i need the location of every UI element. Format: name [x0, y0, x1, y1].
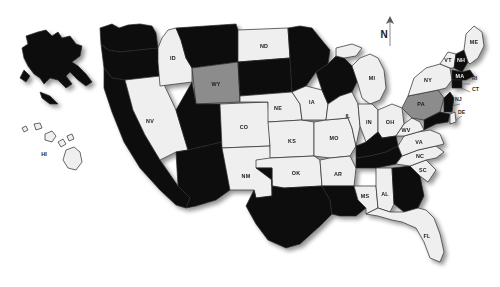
us-choropleth-map: NV ID WY CO NM ND NE KS OK	[0, 0, 500, 287]
alaska-inset[interactable]	[20, 30, 92, 104]
state-HI[interactable]	[22, 123, 82, 170]
state-label-NH: NH	[457, 57, 465, 63]
state-label-HI: HI	[41, 151, 47, 157]
state-label-VT: VT	[444, 57, 452, 63]
state-label-WY: WY	[211, 81, 220, 87]
state-label-AL: AL	[381, 191, 389, 197]
state-label-FL: FL	[424, 233, 431, 239]
state-SD[interactable]	[238, 58, 292, 96]
state-label-ME: ME	[470, 39, 479, 45]
state-label-CO: CO	[240, 124, 249, 130]
state-AK[interactable]	[20, 30, 92, 104]
state-NJ[interactable]	[444, 92, 454, 112]
state-label-NV: NV	[146, 118, 154, 124]
north-arrow: N	[380, 16, 394, 46]
state-label-ID: ID	[170, 55, 176, 61]
callout-label-CT: CT	[472, 86, 480, 92]
state-label-OK: OK	[292, 170, 301, 176]
state-label-OH: OH	[386, 119, 395, 125]
callout-label-NJ: NJ	[455, 96, 462, 102]
state-label-MI: MI	[369, 75, 376, 81]
state-label-MA: MA	[456, 73, 465, 79]
state-label-MO: MO	[329, 135, 338, 141]
state-ME[interactable]	[464, 26, 484, 64]
state-label-IA: IA	[309, 99, 315, 105]
state-label-IL: IL	[345, 113, 351, 119]
us-map-container: NV ID WY CO NM ND NE KS OK	[0, 0, 500, 287]
state-label-SC: SC	[419, 167, 427, 173]
state-label-KS: KS	[288, 138, 296, 144]
state-label-NE: NE	[274, 105, 282, 111]
state-DE[interactable]	[450, 112, 456, 124]
state-label-NC: NC	[416, 153, 424, 159]
state-label-NY: NY	[424, 77, 432, 83]
state-label-VA: VA	[415, 139, 423, 145]
state-WA[interactable]	[100, 24, 158, 52]
state-label-WV: WV	[401, 127, 410, 133]
hawaii-inset[interactable]: HI	[22, 123, 82, 170]
state-label-NM: NM	[242, 173, 251, 179]
state-AL[interactable]	[376, 168, 394, 212]
callout-label-DE: DE	[458, 109, 466, 115]
state-FL[interactable]	[366, 208, 444, 262]
state-label-IN: IN	[366, 119, 372, 125]
state-label-PA: PA	[417, 101, 425, 107]
callout-label-RI: RI	[472, 75, 478, 81]
state-label-MS: MS	[361, 193, 370, 199]
state-label-ND: ND	[260, 43, 268, 49]
state-label-AR: AR	[334, 171, 342, 177]
leader-DE	[456, 116, 462, 120]
north-arrow-label: N	[380, 29, 387, 40]
state-CT-shape[interactable]	[452, 80, 462, 88]
leader-CT	[461, 88, 470, 92]
